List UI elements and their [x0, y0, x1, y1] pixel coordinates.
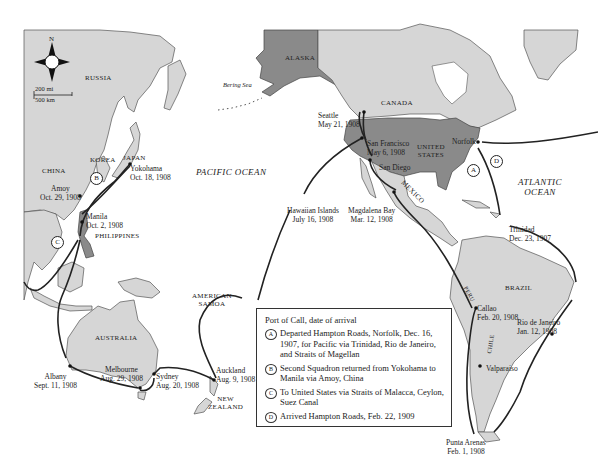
legend-text-c: To United States via Straits of Malacca,… — [280, 387, 445, 408]
port-dot-melbourne — [138, 386, 142, 390]
route-return-atlantic — [482, 132, 598, 143]
region-brazil: BRAZIL — [505, 284, 532, 292]
port-label-punta-arenas: Punta ArenasFeb. 1, 1908 — [446, 439, 486, 456]
scale-miles-label: 200 mi — [35, 85, 53, 92]
port-dot-seattle — [362, 110, 366, 114]
greenland-land — [524, 30, 578, 80]
route-marker-b: B — [90, 172, 103, 185]
region-canada: CANADA — [381, 99, 413, 107]
pacific-ocean-label: PACIFIC OCEAN — [196, 167, 266, 177]
port-label-trinidad: TrinidadDec. 23, 1907 — [509, 226, 551, 243]
region-philippines: PHILIPPINES — [95, 232, 140, 240]
legend-title: Port of Call, date of arrival — [265, 315, 445, 325]
scale-km-label: 500 km — [35, 96, 55, 103]
region-korea: KOREA — [90, 156, 116, 164]
route-marker-c: C — [51, 236, 64, 249]
port-label-valparaiso: Valparaiso — [486, 365, 518, 374]
legend-text-d: Arrived Hampton Roads, Feb. 22, 1909 — [280, 411, 415, 423]
region-new-zealand: NEW ZEALAND — [208, 395, 243, 411]
port-label-manila: ManilaOct. 2, 1908 — [86, 213, 123, 230]
kamchatka-land — [164, 60, 186, 110]
region-american-samoa: AMERICAN SAMOA — [192, 292, 232, 308]
port-label-amoy: AmoyOct. 29, 1908 — [40, 185, 81, 202]
route-marker-a: A — [467, 164, 480, 177]
legend-key-c: C — [265, 388, 277, 399]
port-dot-san-francisco — [360, 136, 364, 140]
port-label-hawaii: Hawaiian IslandsJuly 16, 1908 — [287, 207, 339, 224]
legend-key-d: D — [265, 412, 277, 423]
port-label-albany: AlbanySept. 11, 1908 — [34, 373, 77, 390]
legend-key-a: A — [265, 329, 277, 340]
compass-north-label: N — [49, 35, 54, 44]
port-label-sydney: SydneyAug. 20, 1908 — [156, 373, 199, 390]
new-guinea-land — [118, 278, 160, 298]
region-australia: AUSTRALIA — [95, 334, 137, 342]
legend: Port of Call, date of arrival A Departed… — [256, 308, 452, 427]
bering-sea-label: Bering Sea — [223, 81, 252, 88]
port-label-magdalena: Magdalena BayMar. 12, 1908 — [348, 207, 395, 224]
region-china: CHINA — [42, 167, 66, 175]
port-label-rio: Rio de JaneiroJan. 12, 1908 — [517, 319, 560, 336]
port-dot-magdalena — [392, 190, 396, 194]
port-label-callao: CallaoFeb. 20, 1908 — [477, 305, 518, 322]
legend-item-b: B Second Squadron returned from Yokohama… — [265, 363, 445, 384]
legend-item-a: A Departed Hampton Roads, Norfolk, Dec. … — [265, 328, 445, 360]
port-label-auckland: AucklandAug. 9, 1908 — [216, 367, 255, 384]
region-japan: JAPAN — [123, 154, 146, 162]
legend-item-c: C To United States via Straits of Malacc… — [265, 387, 445, 408]
legend-text-b: Second Squadron returned from Yokohama t… — [280, 363, 445, 384]
port-label-seattle: SeattleMay 21, 1908 — [318, 112, 360, 129]
caribbean-islands — [462, 200, 500, 218]
route-hawaii-samoa — [258, 210, 290, 300]
port-dot-valparaiso — [478, 364, 482, 368]
tasmania-land — [138, 392, 146, 400]
route-marker-d: D — [490, 155, 503, 168]
atlantic-ocean-label: ATLANTIC OCEAN — [518, 177, 562, 197]
port-label-san-francisco: San FranciscoMay 6, 1908 — [367, 140, 409, 157]
port-dot-albany — [68, 364, 72, 368]
legend-text-a: Departed Hampton Roads, Norfolk, Dec. 16… — [280, 328, 445, 360]
region-united-states: UNITED STATES — [417, 143, 445, 159]
port-dot-manila — [80, 220, 84, 224]
aleutian-islands — [218, 98, 262, 110]
port-dot-norfolk — [476, 140, 480, 144]
port-dot-san-diego — [368, 158, 372, 162]
region-alaska: ALASKA — [285, 54, 315, 62]
port-label-yokohama: YokohamaOct. 18, 1908 — [130, 165, 171, 182]
port-label-melbourne: MelbourneAug. 29, 1908 — [100, 366, 143, 383]
port-label-san-diego: San Diego — [379, 164, 410, 173]
legend-key-b: B — [265, 364, 277, 375]
region-russia: RUSSIA — [85, 74, 112, 82]
port-label-norfolk: Norfolk — [452, 138, 476, 147]
legend-item-d: D Arrived Hampton Roads, Feb. 22, 1909 — [265, 411, 445, 423]
